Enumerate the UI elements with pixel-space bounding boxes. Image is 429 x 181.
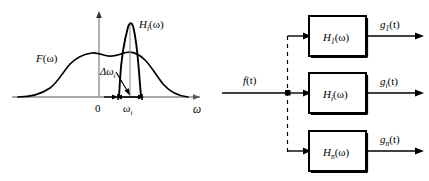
block-n-arg: (ω) [335, 146, 350, 159]
filter-response-label: Hi(ω) [138, 18, 164, 33]
omega-axis-label: ω [193, 103, 201, 115]
svg-text:F(ω): F(ω) [35, 52, 58, 65]
output-line-1: g1(t) [366, 18, 424, 40]
block-1-arg: (ω) [335, 31, 350, 44]
svg-text:Δωi: Δωi [99, 66, 116, 80]
filter-bank-diagram: f(t) H1(ω) g1(t) [222, 16, 424, 172]
svg-text:g1(t): g1(t) [380, 18, 400, 33]
svg-text:gn(t): gn(t) [380, 133, 400, 148]
f-t-arg: (t) [246, 74, 257, 87]
h-i-arg: (ω) [149, 18, 164, 31]
input-signal-label: f(t) [243, 74, 257, 87]
omega-i-tick-label: ωi [123, 103, 132, 117]
origin-label: 0 [95, 102, 101, 114]
delta-omega-sub: i [114, 72, 116, 80]
spectrum-plot: F(ω) Hi(ω) Δωi 0 ωi ω [12, 11, 201, 117]
filter-block-1[interactable]: H1(ω) [288, 16, 368, 57]
output-i-arg: (t) [388, 75, 399, 88]
output-n-arg: (t) [389, 133, 400, 146]
figure-svg: F(ω) Hi(ω) Δωi 0 ωi ω [0, 0, 429, 181]
f-omega-arg: (ω) [43, 52, 58, 65]
svg-text:ωi: ωi [123, 103, 132, 117]
figure-root: F(ω) Hi(ω) Δωi 0 ωi ω [0, 0, 429, 181]
band-left-arrow [104, 95, 118, 100]
omega-i-base: ω [123, 103, 130, 114]
delta-omega-base: Δω [99, 66, 114, 77]
output-1-arg: (t) [389, 18, 400, 31]
svg-text:gi(t): gi(t) [380, 75, 398, 90]
input-line [222, 90, 291, 96]
filter-block-n[interactable]: Hn(ω) [288, 131, 368, 172]
block-i-arg: (ω) [333, 88, 348, 101]
input-spectrum-label: F(ω) [35, 52, 58, 65]
svg-text:Hi(ω): Hi(ω) [138, 18, 164, 33]
omega-i-sub: i [130, 109, 132, 117]
output-line-i: gi(t) [366, 75, 424, 97]
filter-block-i[interactable]: Hi(ω) [288, 73, 368, 114]
svg-text:f(t): f(t) [243, 74, 257, 87]
bandwidth-annotation-label: Δωi [99, 66, 116, 80]
bandwidth-leader [116, 72, 130, 96]
output-line-n: gn(t) [366, 133, 424, 155]
